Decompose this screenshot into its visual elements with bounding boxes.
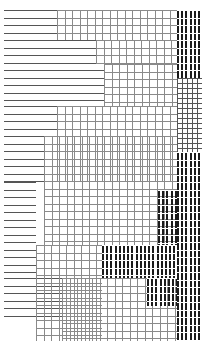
dense-bar-separator	[177, 18, 202, 19]
dense-bar	[152, 245, 154, 278]
hatch-line	[44, 136, 45, 245]
hatch-line	[4, 85, 104, 86]
hatch-line	[187, 78, 188, 152]
dense-bar-separator	[177, 310, 202, 311]
hatch-line	[92, 278, 93, 341]
hatch-line	[82, 136, 83, 245]
hatch-line	[4, 190, 36, 191]
dense-bar	[140, 245, 142, 278]
hatch-line	[142, 136, 143, 245]
hatch-line	[119, 40, 120, 64]
dense-bar-separator	[177, 280, 202, 281]
dense-bar-separator	[177, 152, 202, 153]
dense-bar-separator	[147, 286, 177, 287]
dense-bar	[185, 152, 187, 341]
hatch-line	[4, 144, 44, 145]
hatch-line	[4, 220, 36, 221]
hatch-line	[122, 278, 123, 341]
hatch-line	[149, 40, 150, 64]
hatch-line	[115, 278, 116, 341]
hatch-line	[104, 136, 105, 245]
dense-bar-separator	[177, 197, 202, 198]
hatch-line	[192, 78, 193, 152]
dense-bar	[181, 10, 183, 78]
dense-bar	[177, 10, 179, 78]
hatch-line	[177, 93, 202, 94]
hatch-line	[95, 10, 96, 40]
hatch-line	[177, 78, 178, 152]
hatch-line	[119, 64, 120, 106]
hatch-line	[134, 40, 135, 64]
hatch-line	[4, 227, 36, 228]
hatch-line	[36, 275, 102, 276]
hatch-line	[177, 123, 202, 124]
hatch-line	[72, 10, 73, 40]
dense-bar	[198, 10, 200, 78]
hatch-line	[4, 151, 44, 152]
hatch-line	[149, 136, 150, 245]
dense-bar	[169, 245, 171, 278]
dense-bar-separator	[158, 228, 177, 229]
hatch-line	[177, 113, 202, 114]
dense-bar-separator	[102, 275, 177, 276]
hatch-line	[4, 250, 36, 251]
dense-bar-separator	[158, 243, 177, 244]
dense-bar-separator	[177, 250, 202, 251]
hatch-line	[117, 10, 118, 40]
hatch-line	[107, 278, 108, 341]
hatch-line	[177, 98, 202, 99]
hatch-line	[127, 136, 128, 245]
dense-bar-separator	[102, 253, 177, 254]
hatch-line	[4, 197, 36, 198]
dense-bar-separator	[102, 260, 177, 261]
dense-bar-separator	[177, 55, 202, 56]
pattern-canvas	[0, 0, 204, 356]
hatch-line	[65, 10, 66, 40]
dense-bar	[131, 245, 133, 278]
region-top-center-grid	[57, 10, 177, 40]
hatch-line	[197, 78, 198, 152]
dense-bar-separator	[158, 220, 177, 221]
dense-bar	[136, 245, 138, 278]
hatch-line	[4, 182, 36, 183]
hatch-line	[52, 136, 53, 245]
hatch-line	[4, 212, 36, 213]
dense-bar	[110, 245, 112, 278]
hatch-line	[177, 133, 202, 134]
region-right-grid-inset	[177, 78, 202, 152]
dense-bar-separator	[177, 242, 202, 243]
dense-bar	[106, 245, 108, 278]
dense-bar-separator	[147, 301, 177, 302]
hatch-line	[4, 242, 36, 243]
dense-bar	[181, 152, 183, 341]
hatch-line	[104, 72, 177, 73]
dense-bar	[144, 245, 146, 278]
dense-bar-separator	[177, 325, 202, 326]
hatch-line	[4, 136, 44, 137]
hatch-line	[4, 205, 36, 206]
dense-bar-separator	[177, 212, 202, 213]
hatch-line	[74, 136, 75, 245]
region-right-dense-bars-upper	[177, 10, 202, 78]
hatch-line	[177, 108, 202, 109]
region-upper-right-grid	[104, 64, 177, 106]
hatch-line	[110, 10, 111, 40]
hatch-line	[147, 10, 148, 40]
dense-bar-separator	[177, 48, 202, 49]
hatch-line	[177, 78, 202, 79]
hatch-line	[57, 10, 58, 40]
hatch-line	[36, 245, 37, 341]
hatch-line	[87, 10, 88, 40]
hatch-line	[59, 245, 60, 341]
dense-bar-separator	[177, 340, 202, 341]
dense-bar-separator	[177, 272, 202, 273]
dense-bar-separator	[177, 227, 202, 228]
dense-bar-separator	[177, 40, 202, 41]
hatch-line	[67, 136, 68, 245]
dense-bar-separator	[177, 167, 202, 168]
dense-bar-separator	[177, 160, 202, 161]
region-lower-left-horizontal-rules	[4, 182, 36, 278]
hatch-line	[85, 278, 86, 341]
hatch-line	[62, 278, 63, 341]
hatch-line	[126, 40, 127, 64]
